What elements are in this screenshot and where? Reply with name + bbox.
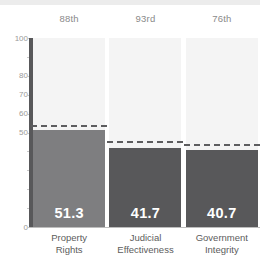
y-axis-tick	[0, 52, 31, 62]
y-axis-tick: 100	[0, 33, 31, 43]
percentile-label: 76th	[184, 10, 260, 26]
y-axis-tick-label: 100	[15, 34, 28, 43]
y-axis-tick	[0, 165, 31, 175]
category-label: Judicial Effectiveness	[107, 232, 183, 260]
category-label: Government Integrity	[184, 232, 260, 260]
average-marker	[31, 125, 107, 127]
bar-value-label: 41.7	[131, 205, 160, 227]
category-label: Property Rights	[31, 232, 107, 260]
bar-value-label: 51.3	[54, 205, 83, 227]
category-label-line: Rights	[31, 244, 107, 256]
category-label-line: Judicial	[107, 232, 183, 244]
bar[interactable]: 41.7	[109, 148, 181, 227]
percentile-label: 88th	[31, 10, 107, 26]
bar-chart: 88th 93rd 76th 100807060500 51.3 41.7	[0, 0, 260, 263]
category-label-line: Government	[184, 232, 260, 244]
bar-slot: 51.3	[31, 38, 107, 227]
bar-series: 51.3 41.7 40.7	[31, 38, 260, 227]
average-marker	[107, 141, 183, 143]
average-marker	[184, 144, 260, 146]
y-axis-tick	[0, 146, 31, 156]
category-label-row: Property Rights Judicial Effectiveness G…	[31, 232, 260, 260]
category-label-line: Property	[31, 232, 107, 244]
y-axis-tick: 60	[0, 109, 31, 119]
bar-value-label: 40.7	[207, 205, 236, 227]
plot-area: 100807060500 51.3 41.7 40.7	[31, 38, 260, 227]
top-band-decoration	[0, 0, 260, 5]
bar[interactable]: 51.3	[33, 130, 105, 227]
category-label-line: Integrity	[184, 244, 260, 256]
y-axis-tick: 50	[0, 128, 31, 138]
y-axis-tick	[0, 184, 31, 194]
y-axis-tick: 70	[0, 90, 31, 100]
y-axis-tick: 80	[0, 71, 31, 81]
percentile-label: 93rd	[107, 10, 183, 26]
bar-slot: 41.7	[107, 38, 183, 227]
bar[interactable]: 40.7	[186, 150, 258, 227]
category-label-line: Effectiveness	[107, 244, 183, 256]
x-axis-baseline	[29, 227, 260, 228]
percentile-label-row: 88th 93rd 76th	[31, 10, 260, 26]
y-axis-tick: 0	[0, 222, 31, 232]
y-axis-tick	[0, 203, 31, 213]
bar-slot: 40.7	[184, 38, 260, 227]
